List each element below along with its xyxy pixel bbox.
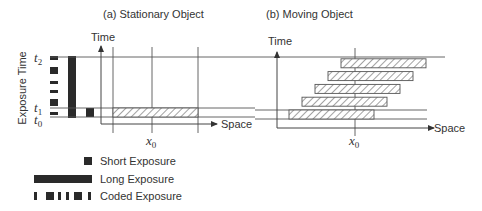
- time-mark-t2: t2: [34, 50, 42, 67]
- legend-long-swatch: [34, 175, 92, 183]
- panel-a-title: (a) Stationary Object: [103, 8, 204, 20]
- svg-text:t2: t2: [34, 50, 42, 67]
- coded-segment: [50, 81, 58, 84]
- legend-short-label: Short Exposure: [100, 155, 176, 167]
- legend-long-label: Long Exposure: [100, 173, 174, 185]
- legend-coded-swatch: [34, 192, 91, 200]
- stationary-object-bar: [113, 108, 198, 117]
- coded-exposure-column: [50, 56, 58, 115]
- long-exposure-bar: [68, 56, 76, 118]
- panel-b-title: (b) Moving Object: [266, 8, 353, 20]
- coded-segment: [50, 99, 58, 106]
- legend: Short Exposure Long Exposure Coded Expos…: [34, 155, 182, 202]
- exposure-time-label: Exposure Time: [16, 51, 28, 124]
- panel-b-time-label: Time: [268, 35, 292, 47]
- panel-a-time-label: Time: [91, 31, 115, 43]
- coded-segment: [50, 112, 58, 115]
- panel-a-x0-label: x0: [145, 133, 157, 150]
- short-exposure-bar: [86, 108, 94, 117]
- coded-segment: [50, 90, 58, 93]
- moving-object-bar: [302, 97, 387, 106]
- panel-b-space-label: Space: [434, 122, 465, 134]
- coded-segment: [50, 67, 58, 74]
- moving-object-bar: [315, 84, 400, 93]
- panel-a-space-label: Space: [221, 118, 252, 130]
- exposure-diagram: Exposure Time t2 t1 t0 (a) Stationary Ob…: [0, 0, 482, 211]
- moving-object-bar: [328, 72, 413, 81]
- moving-object-bar: [289, 110, 374, 119]
- legend-short-swatch: [84, 157, 92, 165]
- legend-coded-label: Coded Exposure: [100, 190, 182, 202]
- panel-b-x0-label: x0: [348, 133, 360, 150]
- moving-object-bar: [341, 59, 426, 68]
